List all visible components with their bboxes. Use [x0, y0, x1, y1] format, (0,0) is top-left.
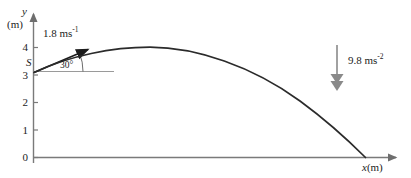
launch-angle-label: 30° [60, 61, 73, 71]
gravity-label: 9.8 ms-2 [348, 55, 384, 66]
trajectory-curve [34, 47, 366, 157]
launch-point-label: S [26, 57, 32, 68]
x-axis-unit: (m) [367, 161, 383, 173]
y-axis-name: y [22, 6, 27, 17]
velocity-magnitude-unit: 1.8 ms [43, 27, 72, 39]
gravity-exponent: -2 [377, 52, 383, 61]
y-tick-label-2: 2 [14, 97, 28, 108]
y-tick-label-4: 4 [14, 42, 28, 53]
y-axis-unit: (m) [7, 19, 23, 30]
x-axis-label: x(m) [362, 162, 383, 173]
velocity-label: 1.8 ms-1 [43, 28, 79, 39]
projectile-motion-figure: y (m) 0 1 2 3 4 x(m) S 1.8 ms-1 30° 9.8 … [0, 0, 411, 178]
velocity-exponent: -1 [72, 25, 78, 34]
y-tick-label-0: 0 [14, 152, 28, 163]
y-axis [34, 14, 39, 163]
y-tick-label-3: 3 [14, 70, 28, 81]
gravity-magnitude-unit: 9.8 ms [348, 54, 377, 66]
gravity-arrow [331, 45, 344, 91]
y-tick-label-1: 1 [14, 125, 28, 136]
